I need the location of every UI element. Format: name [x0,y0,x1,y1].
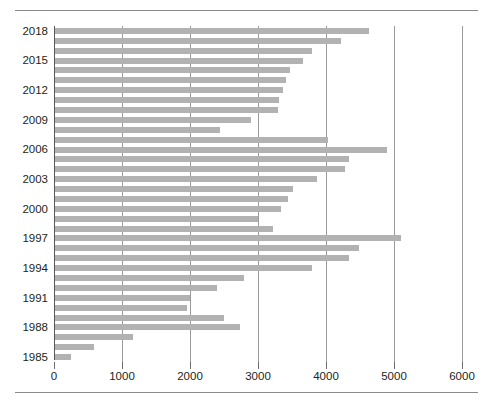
bar [55,216,258,222]
bar [55,344,94,350]
x-tick-mark-4000 [326,362,327,369]
bar [55,196,288,202]
plot-area [54,26,462,362]
bar [55,295,190,301]
bar [55,275,244,281]
bar [55,137,328,143]
gridline-4000 [326,26,327,362]
bar [55,48,312,54]
x-tick-label: 5000 [381,370,407,382]
bar [55,176,317,182]
bar [55,245,359,251]
bar [55,226,273,232]
y-tick-label: 2012 [22,85,48,97]
y-tick-label: 2015 [22,55,48,67]
bar [55,334,133,340]
y-tick-label: 2006 [22,144,48,156]
bar [55,305,187,311]
bar [55,77,286,83]
bar [55,117,251,123]
bar [55,147,387,153]
y-tick-label: 2009 [22,115,48,127]
x-tick-label: 6000 [449,370,475,382]
bar [55,97,279,103]
bar [55,28,369,34]
x-tick-mark-5000 [394,362,395,369]
bar [55,186,293,192]
y-tick-label: 2000 [22,204,48,216]
bar [55,324,240,330]
bar [55,354,71,360]
x-tick-label: 0 [51,370,57,382]
y-axis-labels: 2018201520122009200620032000199719941991… [0,0,48,409]
bar [55,235,401,241]
x-tick-label: 2000 [177,370,203,382]
gridline-6000 [462,26,463,362]
y-tick-label: 2003 [22,174,48,186]
x-tick-mark-2000 [190,362,191,369]
bottom-divider-rule [15,392,478,393]
x-tick-mark-3000 [258,362,259,369]
bar [55,156,349,162]
y-tick-label: 1991 [22,293,48,305]
bar [55,127,220,133]
x-tick-mark-1000 [122,362,123,369]
bar [55,58,303,64]
top-divider-rule [15,10,478,11]
bar [55,206,281,212]
x-tick-label: 4000 [313,370,339,382]
chart-figure: 2018201520122009200620032000199719941991… [0,0,490,409]
bar [55,38,341,44]
bar [55,87,283,93]
y-tick-label: 1994 [22,263,48,275]
x-tick-mark-6000 [462,362,463,369]
y-tick-label: 2018 [22,26,48,38]
bar [55,255,349,261]
bar [55,285,217,291]
x-tick-mark-0 [54,362,55,369]
x-tick-label: 1000 [109,370,135,382]
bar [55,166,345,172]
x-tick-label: 3000 [245,370,271,382]
bar [55,67,290,73]
bar [55,265,312,271]
bar [55,107,278,113]
bar [55,315,224,321]
y-tick-label: 1985 [22,352,48,364]
gridline-5000 [394,26,395,362]
y-tick-label: 1988 [22,322,48,334]
y-tick-label: 1997 [22,233,48,245]
